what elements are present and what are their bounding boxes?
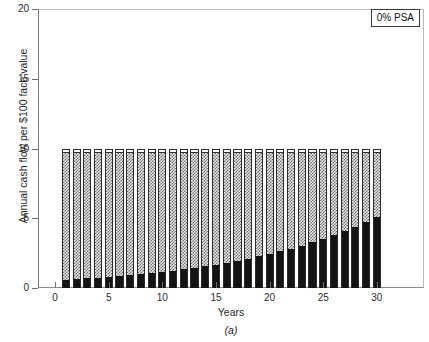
x-axis-tick-label: 30 bbox=[362, 292, 392, 303]
bar-stack bbox=[148, 149, 156, 289]
x-axis-tick-label: 0 bbox=[40, 292, 70, 303]
bar-segment-servicing bbox=[298, 149, 306, 154]
bar-stack bbox=[351, 149, 359, 289]
bar-segment-interest bbox=[233, 153, 241, 260]
x-axis-tick-label: 15 bbox=[201, 292, 231, 303]
bar-segment-principal bbox=[73, 279, 81, 288]
figure-panel: 05101520 051015202530 Annual cash flow p… bbox=[0, 0, 429, 342]
bar-segment-servicing bbox=[148, 149, 156, 154]
x-axis-tick bbox=[216, 282, 217, 288]
bar-stack bbox=[201, 149, 209, 289]
x-axis-tick-label: 10 bbox=[147, 292, 177, 303]
bar-segment-interest bbox=[319, 153, 327, 239]
bar-segment-principal bbox=[298, 246, 306, 288]
bar-segment-servicing bbox=[212, 149, 220, 154]
bar-stack bbox=[319, 149, 327, 289]
x-axis-tick bbox=[323, 282, 324, 288]
bar-stack bbox=[276, 149, 284, 289]
bar-segment-interest bbox=[73, 153, 81, 279]
bar-segment-interest bbox=[126, 153, 134, 275]
bar-stack bbox=[83, 149, 91, 289]
bar-segment-servicing bbox=[169, 149, 177, 154]
x-axis-tick-label: 20 bbox=[255, 292, 285, 303]
y-axis-tick-label: 20 bbox=[0, 4, 29, 14]
bar-segment-principal bbox=[373, 217, 381, 288]
bar-segment-principal bbox=[287, 249, 295, 288]
bar-segment-principal bbox=[137, 274, 145, 288]
bar-segment-servicing bbox=[244, 149, 252, 154]
bar-segment-interest bbox=[298, 153, 306, 245]
bar-segment-interest bbox=[266, 153, 274, 254]
bar-segment-interest bbox=[190, 153, 198, 267]
bar-segment-interest bbox=[212, 153, 220, 264]
legend-psa-box: 0% PSA bbox=[371, 9, 420, 27]
bar-segment-principal bbox=[341, 231, 349, 288]
bar-segment-principal bbox=[233, 261, 241, 288]
bar-segment-interest bbox=[169, 153, 177, 270]
bar-segment-servicing bbox=[373, 149, 381, 154]
bar-segment-interest bbox=[287, 153, 295, 248]
bar-segment-interest bbox=[83, 153, 91, 278]
bar-segment-principal bbox=[362, 222, 370, 288]
bar-segment-servicing bbox=[105, 149, 113, 154]
bar-segment-servicing bbox=[308, 149, 316, 154]
bar-stack bbox=[105, 149, 113, 289]
bar-segment-servicing bbox=[255, 149, 263, 154]
bar-segment-principal bbox=[244, 259, 252, 288]
bar-segment-servicing bbox=[319, 149, 327, 154]
bar-segment-interest bbox=[330, 153, 338, 235]
bar-segment-interest bbox=[351, 153, 359, 226]
x-axis-tick-label: 25 bbox=[308, 292, 338, 303]
y-axis-tick bbox=[32, 288, 38, 289]
bar-segment-interest bbox=[223, 153, 231, 262]
x-axis-tick-label: 5 bbox=[94, 292, 124, 303]
bar-segment-interest bbox=[276, 153, 284, 251]
bar-segment-interest bbox=[255, 153, 263, 256]
bar-stack bbox=[158, 149, 166, 289]
bar-stack bbox=[308, 149, 316, 289]
bar-stack bbox=[298, 149, 306, 289]
figure-caption: (a) bbox=[38, 324, 424, 336]
bar-stack bbox=[255, 149, 263, 289]
bar-segment-servicing bbox=[223, 149, 231, 154]
bar-stack bbox=[115, 149, 123, 289]
bar-stack bbox=[266, 149, 274, 289]
bar-stack bbox=[180, 149, 188, 289]
bar-segment-interest bbox=[137, 153, 145, 274]
bar-stack bbox=[373, 149, 381, 289]
x-axis-title: Years bbox=[38, 306, 424, 318]
bar-segment-interest bbox=[115, 153, 123, 276]
bar-stack bbox=[126, 149, 134, 289]
bar-segment-principal bbox=[148, 273, 156, 288]
bar-segment-servicing bbox=[201, 149, 209, 154]
y-axis-tick-label: 0 bbox=[0, 283, 29, 293]
x-axis-tick bbox=[377, 282, 378, 288]
bar-segment-servicing bbox=[266, 149, 274, 154]
bar-segment-principal bbox=[201, 266, 209, 288]
bar-segment-principal bbox=[126, 275, 134, 288]
bar-stack bbox=[341, 149, 349, 289]
bar-segment-interest bbox=[373, 153, 381, 216]
bar-segment-principal bbox=[223, 263, 231, 288]
bar-segment-interest bbox=[105, 153, 113, 276]
bar-segment-principal bbox=[115, 276, 123, 288]
x-axis-tick bbox=[55, 282, 56, 288]
plot-area bbox=[38, 9, 424, 288]
bar-stack bbox=[244, 149, 252, 289]
bar-segment-servicing bbox=[83, 149, 91, 154]
bar-stack bbox=[223, 149, 231, 289]
bar-segment-servicing bbox=[94, 149, 102, 154]
bar-segment-servicing bbox=[341, 149, 349, 154]
bar-segment-servicing bbox=[126, 149, 134, 154]
bar-segment-principal bbox=[330, 235, 338, 288]
bar-segment-principal bbox=[319, 239, 327, 288]
bar-segment-servicing bbox=[180, 149, 188, 154]
x-axis-tick bbox=[109, 282, 110, 288]
bar-segment-servicing bbox=[362, 149, 370, 154]
bar-segment-principal bbox=[255, 256, 263, 288]
bar-stack bbox=[330, 149, 338, 289]
bar-segment-interest bbox=[94, 153, 102, 277]
bar-segment-principal bbox=[308, 242, 316, 288]
bar-segment-servicing bbox=[115, 149, 123, 154]
y-axis-title: Annual cash flow per $100 face value bbox=[17, 26, 29, 246]
